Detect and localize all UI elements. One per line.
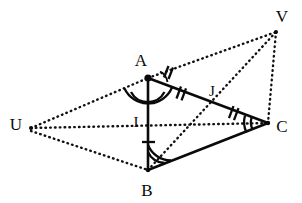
label-A: A <box>135 51 148 70</box>
label-J: J <box>209 83 215 99</box>
segment-UB <box>31 131 148 170</box>
label-I: I <box>134 114 139 130</box>
segment-UA <box>31 78 148 128</box>
vertex-dot-B <box>146 168 150 172</box>
segment-UC <box>31 123 268 128</box>
vertex-dot-U <box>29 126 33 130</box>
segment-AC <box>148 78 268 123</box>
angle-marks-group <box>125 66 253 163</box>
label-V: V <box>276 7 289 26</box>
vertex-dot-A <box>144 74 151 81</box>
vertex-dot-C <box>266 121 270 125</box>
segment-VC <box>268 32 276 123</box>
angle-at-B-inner <box>148 152 165 163</box>
geometry-canvas: A B C U V I J <box>0 0 302 203</box>
geometry-figure: A B C U V I J <box>0 0 302 203</box>
label-C: C <box>276 117 287 136</box>
label-U: U <box>10 115 22 134</box>
label-B: B <box>141 181 152 200</box>
segment-BC <box>148 123 268 170</box>
vertex-dot-V <box>274 30 278 34</box>
